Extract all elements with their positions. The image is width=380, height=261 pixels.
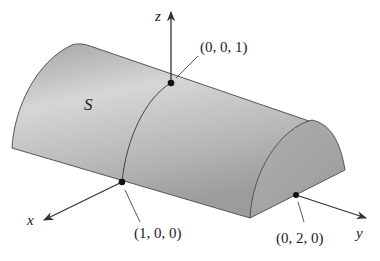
leader-100 bbox=[125, 190, 140, 222]
surface-label: S bbox=[84, 96, 93, 113]
point-001-label: (0, 0, 1) bbox=[200, 40, 248, 55]
figure-graphics bbox=[0, 0, 380, 261]
point-020-dot bbox=[293, 192, 299, 198]
leader-020 bbox=[298, 202, 304, 222]
half-cylinder-figure: z x y S (0, 0, 1) (1, 0, 0) (0, 2, 0) bbox=[0, 0, 380, 261]
y-axis-label: y bbox=[356, 226, 363, 241]
point-001-dot bbox=[168, 80, 175, 87]
z-axis-label: z bbox=[155, 9, 161, 24]
x-axis bbox=[44, 182, 122, 220]
point-100-label: (1, 0, 0) bbox=[134, 226, 182, 241]
leader-001 bbox=[176, 56, 198, 78]
point-020-label: (0, 2, 0) bbox=[276, 231, 324, 246]
y-axis bbox=[296, 195, 366, 218]
x-axis-label: x bbox=[27, 213, 34, 228]
point-100-dot bbox=[119, 179, 126, 186]
